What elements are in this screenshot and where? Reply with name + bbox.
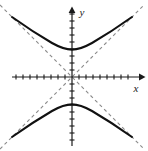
hyperbola-figure: x y <box>0 0 148 151</box>
graph-canvas: x y <box>0 0 148 151</box>
y-axis-label: y <box>79 6 85 18</box>
x-axis-label: x <box>133 82 139 94</box>
